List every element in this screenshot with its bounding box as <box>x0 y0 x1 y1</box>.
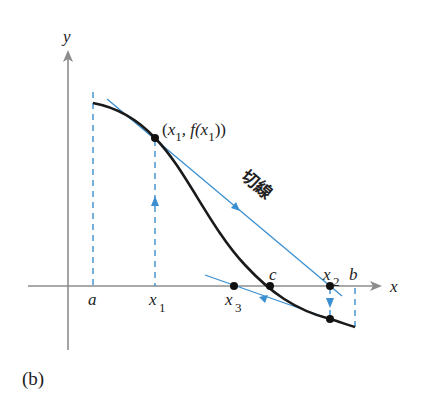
tangent-label: 切線 <box>237 166 276 203</box>
label-b: b <box>349 265 358 284</box>
label-x1: x 1 <box>148 290 166 315</box>
svg-text:1: 1 <box>159 300 166 315</box>
up-arrow-icon <box>151 196 159 206</box>
newtons-method-diagram: y x a x 1 x 3 c x 2 b (x1, f(x1)) 切線 (b) <box>0 0 429 403</box>
svg-text:3: 3 <box>235 300 242 315</box>
svg-text:x: x <box>224 290 233 309</box>
points <box>151 134 334 323</box>
label-x3: x 3 <box>224 290 242 315</box>
y-axis-label: y <box>61 27 71 46</box>
label-a: a <box>88 290 97 309</box>
point-x2-fx2 <box>326 315 334 323</box>
figure-caption: (b) <box>22 368 44 390</box>
svg-text:2: 2 <box>333 274 340 289</box>
svg-text:x: x <box>148 290 157 309</box>
point-label-x1-fx1: (x1, f(x1)) <box>162 120 226 144</box>
x-axis-label: x <box>389 277 398 296</box>
label-c: c <box>269 265 277 284</box>
tangent-2-direction-arrow-icon <box>259 295 268 303</box>
down-arrow-icon <box>326 298 334 308</box>
point-x1-fx1 <box>151 134 159 142</box>
svg-text:x: x <box>322 265 331 284</box>
axes <box>28 52 380 350</box>
point-x3 <box>230 282 238 290</box>
svg-text:(x1, f(x1)): (x1, f(x1)) <box>162 120 226 144</box>
